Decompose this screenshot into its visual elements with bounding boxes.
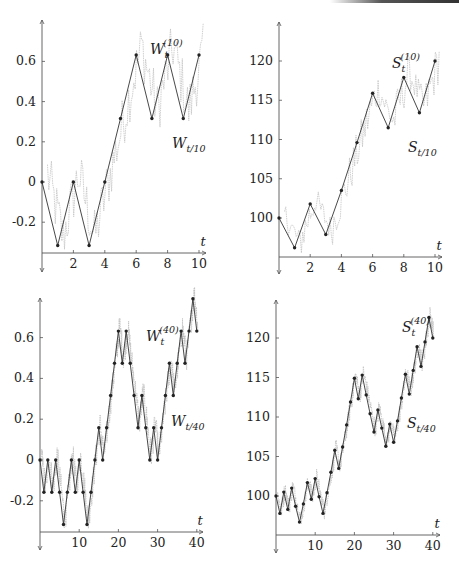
y-tick-label: 110: [246, 409, 270, 424]
data-point-marker: [349, 400, 352, 403]
data-point-marker: [125, 329, 128, 332]
y-tick-label: 0: [26, 452, 34, 467]
data-point-marker: [42, 491, 45, 494]
data-point-marker: [310, 498, 313, 501]
x-axis-label: t: [436, 238, 442, 253]
data-point-marker: [353, 377, 356, 380]
data-point-marker: [152, 426, 155, 429]
data-point-marker: [72, 180, 75, 183]
data-point-marker: [341, 445, 344, 448]
data-point-marker: [172, 394, 175, 397]
data-point-marker: [371, 92, 374, 95]
data-point-marker: [400, 396, 403, 399]
data-point-marker: [132, 394, 135, 397]
x-tick-label: 4: [337, 260, 345, 275]
data-point-marker: [302, 502, 305, 505]
data-point-marker: [191, 297, 194, 300]
y-tick-label: 110: [249, 132, 273, 147]
data-point-marker: [50, 491, 53, 494]
y-tick-label: 100: [249, 210, 273, 225]
data-point-marker: [361, 373, 364, 376]
y-tick-label: 100: [246, 488, 270, 503]
data-point-marker: [117, 329, 120, 332]
continuous-series-label: St/10: [408, 139, 437, 158]
data-point-marker: [148, 458, 151, 461]
x-tick-label: 20: [110, 535, 126, 550]
data-point-marker: [355, 141, 358, 144]
x-tick-label: 4: [101, 256, 109, 271]
figure-canvas: 246810-0.200.20.40.6tWt(10)Wt/10 2468101…: [0, 0, 459, 567]
y-tick-label: 0: [28, 174, 36, 189]
y-tick-label: -0.2: [12, 214, 36, 229]
x-tick-label: 6: [369, 260, 377, 275]
data-point-marker: [387, 126, 390, 129]
data-point-marker: [396, 419, 399, 422]
data-point-marker: [81, 491, 84, 494]
x-tick-label: 2: [306, 260, 314, 275]
data-point-marker: [93, 458, 96, 461]
discrete-series-label: St(10): [392, 51, 420, 74]
y-tick-label: 120: [249, 53, 273, 68]
x-tick-label: 10: [307, 538, 323, 553]
data-point-marker: [54, 458, 57, 461]
data-point-marker: [324, 233, 327, 236]
data-point-marker: [40, 180, 43, 183]
x-tick-label: 6: [132, 256, 140, 271]
data-point-marker: [278, 512, 281, 515]
data-point-marker: [168, 362, 171, 365]
x-axis-label: t: [197, 513, 203, 528]
continuous-series-label: Wt/40: [171, 413, 205, 432]
data-point-marker: [121, 362, 124, 365]
continuous-series-label: St/40: [407, 415, 436, 434]
data-point-marker: [345, 423, 348, 426]
data-point-marker: [78, 458, 81, 461]
data-point-marker: [357, 397, 360, 400]
data-point-marker: [419, 365, 422, 368]
data-point-marker: [182, 117, 185, 120]
x-tick-label: 30: [150, 535, 166, 550]
data-point-marker: [183, 362, 186, 365]
data-point-marker: [433, 59, 436, 62]
panel-bottom-left: 10203040-0.200.20.40.6tWt(40)Wt/40: [10, 287, 205, 550]
continuous-series-label: Wt/10: [172, 135, 206, 154]
y-tick-label: 0.6: [14, 330, 34, 345]
x-axis-label: t: [434, 516, 440, 531]
data-point-marker: [333, 449, 336, 452]
data-point-marker: [325, 491, 328, 494]
data-point-marker: [144, 426, 147, 429]
x-tick-label: 8: [400, 260, 408, 275]
data-point-marker: [197, 53, 200, 56]
data-point-marker: [119, 117, 122, 120]
data-point-marker: [376, 408, 379, 411]
data-point-marker: [89, 491, 92, 494]
data-point-marker: [340, 189, 343, 192]
data-point-marker: [58, 491, 61, 494]
y-tick-label: -0.2: [10, 493, 34, 508]
x-tick-label: 8: [164, 256, 172, 271]
x-tick-label: 2: [69, 256, 77, 271]
data-point-marker: [290, 486, 293, 489]
data-point-marker: [384, 445, 387, 448]
x-axis-label: t: [200, 234, 206, 249]
data-point-marker: [274, 494, 277, 497]
data-point-marker: [293, 246, 296, 249]
data-point-marker: [317, 495, 320, 498]
panel-bottom-right: 10203040100105110115120tSt(40)St/40: [246, 300, 441, 553]
data-point-marker: [404, 373, 407, 376]
y-tick-label: 0.2: [14, 411, 34, 426]
y-tick-label: 0.2: [16, 134, 36, 149]
data-point-marker: [176, 362, 179, 365]
data-point-marker: [408, 392, 411, 395]
data-point-marker: [423, 340, 426, 343]
data-point-marker: [66, 491, 69, 494]
x-tick-label: 10: [427, 260, 443, 275]
data-point-marker: [87, 244, 90, 247]
data-point-marker: [136, 426, 139, 429]
data-point-marker: [368, 412, 371, 415]
data-point-marker: [70, 458, 73, 461]
data-point-marker: [195, 329, 198, 332]
panel-top-left: 246810-0.200.20.40.6tWt(10)Wt/10: [12, 20, 207, 272]
data-point-marker: [156, 458, 159, 461]
data-point-marker: [109, 394, 112, 397]
data-point-marker: [85, 523, 88, 526]
